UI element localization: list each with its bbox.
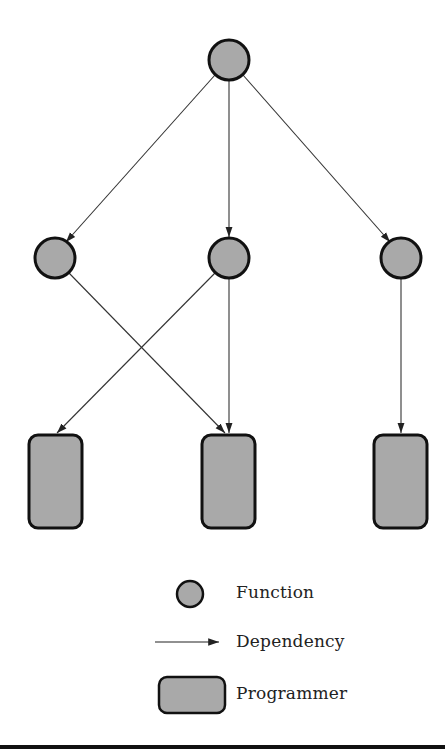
edge-f1-p2 (69, 273, 225, 433)
legend-label-function: Function (236, 582, 314, 602)
legend-label-dependency: Dependency (236, 631, 345, 651)
legend-programmer-icon (159, 677, 225, 713)
programmer-nodes (29, 435, 427, 528)
programmer-node-left (29, 435, 82, 528)
function-node-middle (209, 238, 249, 278)
programmer-node-middle (202, 435, 255, 528)
function-nodes (35, 40, 421, 278)
function-node-root (209, 40, 249, 80)
function-node-right (381, 238, 421, 278)
legend-function-icon (177, 581, 203, 607)
bottom-rule (0, 745, 445, 749)
edge-f2-p1 (57, 273, 215, 433)
edge-f0-f3 (243, 75, 390, 242)
legend-label-programmer: Programmer (236, 683, 347, 703)
dependency-diagram (0, 0, 445, 754)
edge-f0-f1 (66, 75, 215, 242)
programmer-node-right (374, 435, 427, 528)
legend-symbols (155, 581, 225, 713)
function-node-left (35, 238, 75, 278)
